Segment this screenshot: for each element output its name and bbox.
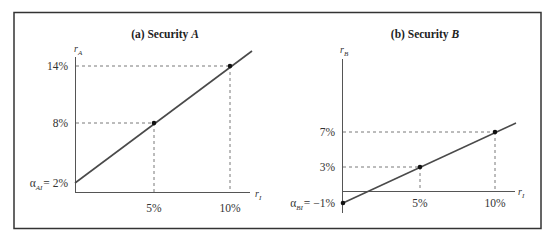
panel-b-y-tick-3: 3%	[320, 161, 336, 173]
figure-frame: (a) Security A rA rI 14% 8% αAI= 2% 5% 1…	[0, 0, 552, 237]
panel-b: (b) Security B rB rI 7% 3% αBI= −1% 5% 1…	[290, 28, 525, 213]
panel-a-title: (a) Security A	[131, 28, 199, 41]
panel-a-x-tick-5: 5%	[146, 202, 162, 214]
panel-a-y-tick-8: 8%	[53, 117, 69, 129]
panel-a: (a) Security A rA rI 14% 8% αAI= 2% 5% 1…	[30, 28, 262, 214]
panel-b-point-10	[493, 130, 498, 135]
panel-a-intercept-label: αAI= 2%	[30, 177, 69, 192]
panel-b-point-0	[341, 201, 346, 206]
panel-b-y-axis-label: rB	[340, 44, 349, 58]
panel-b-y-tick-7: 7%	[320, 126, 336, 138]
panel-a-x-axis-label: rI	[255, 188, 262, 202]
figure-border	[14, 13, 541, 229]
panel-b-x-tick-10: 10%	[484, 197, 506, 209]
panel-b-title: (b) Security B	[391, 28, 460, 41]
panel-a-characteristic-line	[75, 51, 252, 183]
panel-a-y-tick-14: 14%	[47, 60, 69, 72]
panel-a-point-10	[228, 64, 233, 69]
panel-b-x-tick-5: 5%	[412, 197, 428, 209]
panel-b-point-5	[418, 165, 423, 170]
panel-a-y-axis-label: rA	[74, 43, 83, 57]
panel-a-x-tick-10: 10%	[219, 202, 241, 214]
panel-b-intercept-label: αBI= −1%	[290, 197, 335, 212]
panel-b-guides	[343, 132, 495, 191]
panel-a-point-5	[152, 121, 157, 126]
panel-b-x-axis-label: rI	[518, 186, 525, 200]
